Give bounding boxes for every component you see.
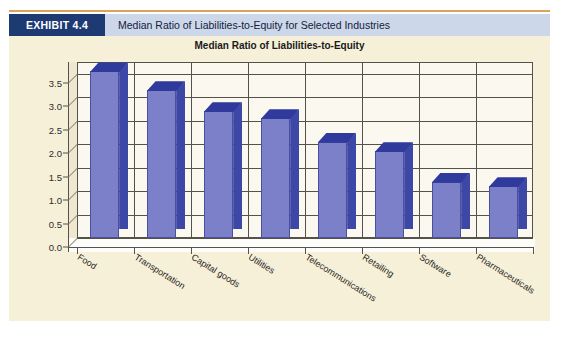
bar-side-face [347, 133, 356, 229]
bar-column [261, 118, 291, 238]
category-separator [134, 62, 135, 238]
x-tick-mark [362, 247, 363, 254]
x-tick-mark [305, 247, 306, 254]
bar-column [90, 71, 120, 238]
bar-column [432, 182, 462, 238]
bar-side-face [119, 62, 128, 229]
y-tick-mark [63, 200, 69, 201]
x-tick-label: Transportation [133, 252, 187, 291]
category-separator [362, 62, 363, 238]
y-tick-label: 2.0 [36, 148, 62, 159]
y-tick-label: 1.0 [36, 195, 62, 206]
bar-column [375, 151, 405, 238]
y-tick-mark [63, 129, 69, 130]
x-tick-label: Food [76, 252, 99, 271]
y-tick-mark [63, 82, 69, 83]
y-tick-mark [63, 223, 69, 224]
y-tick-label: 1.5 [36, 171, 62, 182]
bar-column [489, 186, 519, 238]
exhibit-figure: EXHIBIT 4.4 Median Ratio of Liabilities-… [0, 0, 561, 341]
category-separator [191, 62, 192, 238]
category-separator [419, 62, 420, 238]
bar-column [204, 111, 234, 238]
category-separator [305, 62, 306, 238]
exhibit-header: EXHIBIT 4.4 Median Ratio of Liabilities-… [9, 14, 550, 36]
chart-title: Median Ratio of Liabilities-to-Equity [9, 40, 550, 51]
exhibit-caption: Median Ratio of Liabilities-to-Equity fo… [105, 14, 550, 36]
bar-front-face [432, 182, 462, 238]
x-tick-label: Utilities [247, 252, 277, 276]
y-tick-label: 3.5 [36, 77, 62, 88]
bar-front-face [90, 71, 120, 238]
y-tick-mark [63, 176, 69, 177]
x-tick-label: Pharmaceuticals [475, 252, 537, 296]
x-tick-mark [419, 247, 420, 254]
category-separator [476, 62, 477, 238]
plot-floor [68, 238, 535, 252]
bar-front-face [261, 118, 291, 238]
bar-front-face [375, 151, 405, 238]
x-tick-label: Capital goods [190, 252, 242, 290]
x-tick-label: Software [418, 252, 453, 279]
y-tick-mark [63, 153, 69, 154]
x-tick-label: Retailing [361, 252, 396, 279]
bar-front-face [489, 186, 519, 238]
category-separator [248, 62, 249, 238]
bar-front-face [147, 90, 177, 238]
y-tick-label: 2.5 [36, 124, 62, 135]
bar-front-face [204, 111, 234, 238]
bar-side-face [404, 142, 413, 229]
x-axis-baseline [68, 247, 533, 248]
figure-panel: Median Ratio of Liabilities-to-Equity 0.… [9, 36, 550, 321]
y-tick-mark [63, 106, 69, 107]
bar-column [318, 142, 348, 238]
y-tick-label: 0.0 [36, 242, 62, 253]
x-tick-mark [134, 247, 135, 254]
bar-side-face [290, 109, 299, 229]
x-tick-mark [248, 247, 249, 254]
x-tick-mark [191, 247, 192, 254]
top-rule-divider [9, 10, 550, 12]
y-tick-label: 3.0 [36, 101, 62, 112]
bar-column [147, 90, 177, 238]
bar-side-face [233, 102, 242, 229]
bar-side-face [176, 81, 185, 229]
y-tick-label: 0.5 [36, 218, 62, 229]
gridline [77, 238, 533, 239]
x-tick-mark [476, 247, 477, 254]
bar-front-face [318, 142, 348, 238]
exhibit-number-badge: EXHIBIT 4.4 [9, 14, 105, 36]
x-tick-mark [533, 247, 534, 254]
plot-area: 0.00.51.01.52.02.53.03.5 FoodTransportat… [68, 56, 543, 252]
x-tick-mark [77, 247, 78, 254]
